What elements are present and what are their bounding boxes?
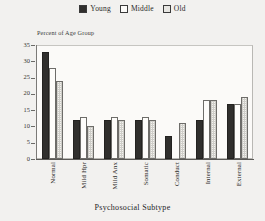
y-tick-label: 35 bbox=[24, 41, 30, 48]
legend-item-old: Old bbox=[163, 4, 186, 13]
bar-young-internal bbox=[196, 120, 203, 159]
y-tick-mark bbox=[31, 126, 35, 127]
x-label-cell: Mild Hpr bbox=[68, 161, 99, 199]
bar-middle-mild-hpr bbox=[80, 117, 87, 159]
y-tick-mark bbox=[31, 78, 35, 79]
legend-swatch-middle-icon bbox=[120, 5, 128, 13]
bar-chart-figure: Young Middle Old Percent of Age Group 05… bbox=[0, 0, 265, 221]
y-tick-label: 5 bbox=[27, 138, 30, 145]
legend-swatch-old-icon bbox=[163, 5, 171, 13]
bar-group-external bbox=[222, 45, 253, 159]
x-tick-label-mild-hpr: Mild Hpr bbox=[80, 162, 87, 189]
bar-group-somatic bbox=[130, 45, 161, 159]
bar-young-conduct bbox=[165, 136, 172, 159]
x-tick-label-normal: Normal bbox=[49, 162, 56, 184]
bar-old-external bbox=[241, 97, 248, 159]
y-tick-label: 0 bbox=[27, 155, 30, 162]
x-label-cell: Conduct bbox=[160, 161, 191, 199]
x-label-cell: External bbox=[222, 161, 253, 199]
x-label-cell: Internal bbox=[191, 161, 222, 199]
bar-old-internal bbox=[210, 100, 217, 159]
bar-old-somatic bbox=[149, 120, 156, 159]
y-axis-title: Percent of Age Group bbox=[37, 29, 94, 36]
bar-group-mild-hpr bbox=[68, 45, 99, 159]
legend-label-old: Old bbox=[174, 4, 186, 13]
bar-young-external bbox=[227, 104, 234, 159]
bar-middle-internal bbox=[203, 100, 210, 159]
bar-middle-normal bbox=[49, 68, 56, 159]
bar-middle-external bbox=[234, 104, 241, 159]
y-tick-mark bbox=[31, 159, 35, 160]
x-axis-title: Psychosocial Subtype bbox=[0, 203, 265, 212]
bar-old-mild-hpr bbox=[87, 126, 94, 159]
y-tick-mark bbox=[31, 61, 35, 62]
chart-legend: Young Middle Old bbox=[0, 4, 265, 13]
bar-young-normal bbox=[42, 52, 49, 159]
x-tick-label-somatic: Somatic bbox=[142, 162, 149, 185]
bar-groups bbox=[37, 45, 253, 159]
y-tick-mark bbox=[31, 110, 35, 111]
bar-middle-somatic bbox=[142, 117, 149, 159]
y-tick-label: 20 bbox=[24, 89, 30, 96]
y-tick-mark bbox=[31, 45, 35, 46]
x-axis-line bbox=[36, 159, 254, 160]
bar-old-normal bbox=[56, 81, 63, 159]
bar-group-internal bbox=[191, 45, 222, 159]
bar-young-somatic bbox=[135, 120, 142, 159]
legend-label-young: Young bbox=[90, 4, 111, 13]
bar-middle-mild-anx bbox=[111, 117, 118, 159]
legend-swatch-young-icon bbox=[79, 5, 87, 13]
x-label-cell: Mild Anx bbox=[99, 161, 130, 199]
bar-group-normal bbox=[37, 45, 68, 159]
bar-old-mild-anx bbox=[118, 120, 125, 159]
legend-item-young: Young bbox=[79, 4, 111, 13]
y-tick-label: 15 bbox=[24, 106, 30, 113]
x-label-cell: Normal bbox=[37, 161, 68, 199]
bar-old-conduct bbox=[179, 123, 186, 159]
y-tick-mark bbox=[31, 94, 35, 95]
x-tick-label-external: External bbox=[234, 162, 241, 186]
bar-young-mild-anx bbox=[104, 120, 111, 159]
bar-group-mild-anx bbox=[99, 45, 130, 159]
x-tick-label-internal: Internal bbox=[203, 162, 210, 184]
legend-item-middle: Middle bbox=[120, 4, 154, 13]
x-label-cell: Somatic bbox=[130, 161, 161, 199]
y-tick-label: 30 bbox=[24, 57, 30, 64]
y-tick-label: 25 bbox=[24, 73, 30, 80]
x-axis-tick-labels: NormalMild HprMild AnxSomaticConductInte… bbox=[37, 161, 253, 199]
y-tick-mark bbox=[31, 143, 35, 144]
bar-group-conduct bbox=[160, 45, 191, 159]
x-tick-label-mild-anx: Mild Anx bbox=[111, 162, 118, 189]
x-tick-label-conduct: Conduct bbox=[172, 162, 179, 186]
bar-young-mild-hpr bbox=[73, 120, 80, 159]
y-tick-label: 10 bbox=[24, 122, 30, 129]
legend-label-middle: Middle bbox=[131, 4, 154, 13]
